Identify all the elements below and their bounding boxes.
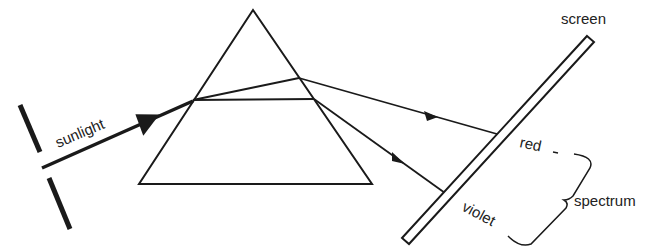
internal-red-ray xyxy=(193,78,299,100)
red-label: red xyxy=(518,133,543,154)
prism xyxy=(139,10,372,184)
red-ray xyxy=(299,78,497,134)
violet-label: violet xyxy=(460,198,500,230)
sunlight-label: sunlight xyxy=(53,115,108,151)
internal-violet-ray xyxy=(193,99,314,100)
internal-rays xyxy=(193,78,314,100)
violet-ray-arrow-icon xyxy=(392,152,405,164)
slit-lower-barrier xyxy=(49,178,70,229)
spectrum-label: spectrum xyxy=(574,192,636,209)
screen-label: screen xyxy=(561,10,606,27)
slit-upper-barrier xyxy=(20,105,40,152)
red-dash xyxy=(553,152,558,153)
prism-dispersion-diagram: sunlight screen red violet spectrum xyxy=(0,0,649,250)
